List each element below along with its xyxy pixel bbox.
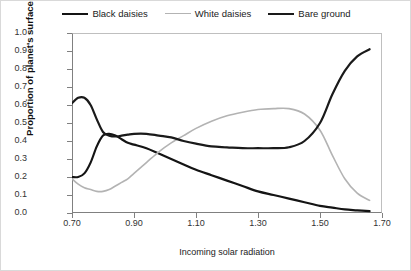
x-axis-title: Incoming solar radiation xyxy=(72,247,382,257)
chart-legend: Black daisiesWhite daisiesBare ground xyxy=(1,9,411,19)
legend-label: Black daisies xyxy=(92,9,147,19)
legend-item[interactable]: Bare ground xyxy=(268,9,350,19)
series-line xyxy=(72,134,370,211)
y-tick-mark xyxy=(67,33,72,34)
y-tick-label: 0.9 xyxy=(0,46,27,55)
y-tick-label: 0.0 xyxy=(0,208,27,217)
y-tick-mark xyxy=(67,123,72,124)
y-tick-mark xyxy=(67,51,72,52)
y-tick-label: 0.7 xyxy=(0,82,27,91)
y-tick-mark xyxy=(67,69,72,70)
series-line xyxy=(72,108,370,200)
y-tick-mark xyxy=(67,105,72,106)
legend-label: White daisies xyxy=(195,9,252,19)
legend-item[interactable]: White daisies xyxy=(165,9,252,19)
x-tick-mark xyxy=(196,213,197,218)
y-tick-label: 0.2 xyxy=(0,172,27,181)
y-tick-mark xyxy=(67,177,72,178)
chart-figure: Black daisiesWhite daisiesBare ground Pr… xyxy=(0,0,411,271)
x-tick-label: 0.70 xyxy=(49,219,95,228)
legend-line-icon xyxy=(165,13,191,14)
legend-item[interactable]: Black daisies xyxy=(62,9,147,19)
x-tick-mark xyxy=(382,213,383,218)
y-tick-mark xyxy=(67,195,72,196)
legend-line-icon xyxy=(62,13,88,15)
y-tick-label: 0.6 xyxy=(0,100,27,109)
x-tick-mark xyxy=(258,213,259,218)
series-canvas xyxy=(72,33,382,213)
plot-area xyxy=(72,33,382,213)
x-tick-mark xyxy=(72,213,73,218)
x-tick-label: 0.90 xyxy=(111,219,157,228)
x-tick-mark xyxy=(134,213,135,218)
y-tick-label: 0.4 xyxy=(0,136,27,145)
x-tick-label: 1.10 xyxy=(173,219,219,228)
x-tick-label: 1.30 xyxy=(235,219,281,228)
x-tick-label: 1.50 xyxy=(297,219,343,228)
legend-label: Bare ground xyxy=(298,9,350,19)
y-tick-label: 0.8 xyxy=(0,64,27,73)
y-tick-label: 0.5 xyxy=(0,118,27,127)
x-tick-mark xyxy=(320,213,321,218)
x-tick-label: 1.70 xyxy=(359,219,405,228)
y-tick-mark xyxy=(67,159,72,160)
y-tick-label: 0.3 xyxy=(0,154,27,163)
y-tick-mark xyxy=(67,141,72,142)
y-tick-mark xyxy=(67,87,72,88)
y-tick-label: 0.1 xyxy=(0,190,27,199)
series-line xyxy=(72,49,370,148)
legend-line-icon xyxy=(268,13,294,15)
y-tick-label: 1.0 xyxy=(0,28,27,37)
